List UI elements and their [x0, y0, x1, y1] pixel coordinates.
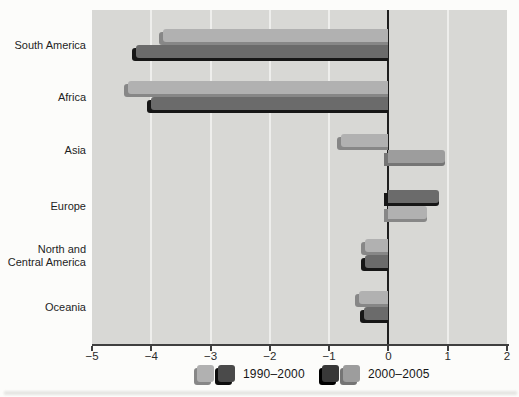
legend-label: 1990–2000 — [243, 367, 305, 381]
x-tick-label: 2 — [504, 350, 510, 362]
legend-entry: 2000–2005 — [322, 365, 430, 382]
forest-area-change-chart: South AmericaAfricaAsiaEuropeNorth and C… — [0, 0, 519, 397]
plot-area — [92, 10, 507, 345]
legend-entry: 1990–2000 — [197, 365, 305, 382]
x-tick-label: −3 — [204, 350, 217, 362]
bar — [388, 206, 427, 219]
bar — [359, 291, 389, 304]
gridline — [328, 10, 330, 345]
gridline — [150, 10, 152, 345]
gridline — [269, 10, 271, 345]
category-label: Africa — [0, 91, 86, 104]
x-tick-label: −1 — [323, 350, 336, 362]
gridline — [210, 10, 212, 345]
category-label: North and Central America — [0, 243, 86, 268]
category-label: Europe — [0, 200, 86, 213]
bar — [341, 134, 388, 147]
legend: 1990–20002000–2005 — [197, 365, 430, 382]
bar — [388, 190, 438, 203]
category-label: Oceania — [0, 301, 86, 314]
gridline — [447, 10, 449, 345]
x-tick-label: −4 — [145, 350, 158, 362]
x-tick-label: −2 — [263, 350, 276, 362]
bar — [163, 29, 388, 42]
bar — [136, 45, 388, 58]
scan-artifact — [4, 391, 517, 395]
bar — [365, 255, 389, 268]
x-tick-label: 0 — [385, 350, 391, 362]
bar — [388, 150, 444, 163]
x-tick-label: −5 — [85, 350, 98, 362]
bar — [365, 239, 389, 252]
legend-label: 2000–2005 — [368, 367, 430, 381]
medium-legend-swatch — [343, 365, 360, 382]
bar — [364, 307, 389, 320]
category-label: South America — [0, 39, 86, 52]
light-legend-swatch — [197, 365, 214, 382]
x-tick-label: 1 — [445, 350, 451, 362]
bar — [151, 97, 388, 110]
category-label: Asia — [0, 144, 86, 157]
dark-swatch-legend-swatch — [218, 365, 235, 382]
bar — [128, 81, 389, 94]
darkest-swatch-legend-swatch — [322, 365, 339, 382]
